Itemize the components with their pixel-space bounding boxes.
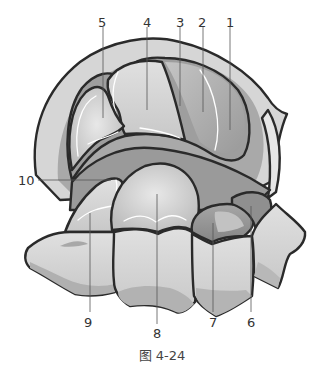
label-6: 6	[247, 315, 255, 330]
label-10: 10	[18, 173, 35, 188]
label-4: 4	[143, 15, 151, 30]
label-1: 1	[226, 15, 234, 30]
label-5: 5	[98, 15, 106, 30]
label-2: 2	[198, 15, 206, 30]
figure-caption: 图 4-24	[139, 348, 186, 363]
label-9: 9	[84, 315, 92, 330]
label-3: 3	[176, 15, 184, 30]
label-7: 7	[209, 315, 217, 330]
bone-far-left	[25, 232, 120, 295]
label-8: 8	[153, 326, 161, 341]
anatomical-diagram: 5 4 3 2 1 10 9 8 7 6 图 4-24	[0, 0, 325, 368]
